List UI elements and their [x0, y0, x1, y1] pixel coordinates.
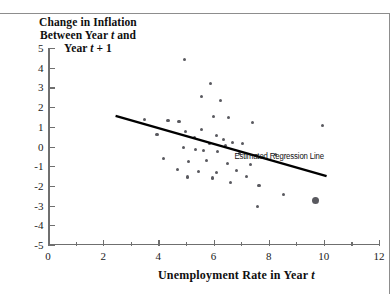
highlighted-data-point: [312, 197, 320, 205]
data-point: [194, 148, 197, 151]
data-point: [143, 118, 146, 121]
y-axis-tick-label: 2: [38, 101, 44, 113]
data-point: [219, 99, 222, 102]
figure-frame-top-border: [0, 13, 390, 14]
data-point: [251, 121, 254, 124]
data-point: [200, 95, 203, 98]
y-axis-tick: -2: [48, 186, 55, 187]
data-point: [224, 144, 227, 147]
plot-area: 543210-1-2-3-4-5 024681012 Estimated Reg…: [48, 48, 379, 245]
x-axis-tick: 4: [158, 240, 159, 246]
data-point: [241, 142, 244, 145]
data-point: [184, 130, 187, 133]
data-point: [257, 184, 260, 187]
y-axis-tick-label: 0: [38, 141, 44, 153]
x-axis-minor-tick: [241, 242, 242, 246]
data-point: [249, 163, 252, 166]
data-point: [212, 115, 215, 118]
data-point: [193, 136, 196, 139]
x-axis-tick-label: 2: [100, 250, 106, 262]
figure-container: Change in InflationBetween Year t andYea…: [0, 0, 390, 294]
x-axis-tick: 10: [324, 240, 325, 246]
x-axis-tick-label: 10: [318, 250, 329, 262]
y-axis-tick: 3: [48, 87, 55, 88]
x-axis-tick-label: 6: [211, 250, 217, 262]
x-axis-tick: 12: [379, 240, 380, 246]
x-axis-tick-label: 8: [266, 250, 272, 262]
data-point: [231, 141, 234, 144]
x-axis-minor-tick: [131, 242, 132, 246]
data-point: [166, 119, 169, 122]
data-point: [226, 162, 229, 165]
data-point: [282, 193, 285, 196]
y-axis-tick: -3: [48, 206, 55, 207]
data-point: [183, 58, 186, 61]
data-point: [182, 146, 185, 149]
data-point: [187, 160, 190, 163]
data-point: [209, 82, 212, 85]
data-point: [229, 181, 232, 184]
x-axis-tick-label: 0: [45, 250, 51, 262]
data-point: [155, 133, 158, 136]
data-point: [222, 138, 225, 141]
y-axis-tick: 2: [48, 107, 55, 108]
data-point: [202, 149, 205, 152]
data-point: [227, 116, 230, 119]
x-axis-minor-tick: [76, 242, 77, 246]
y-axis-tick-label: 1: [38, 121, 44, 133]
y-axis-tick-label: 4: [38, 62, 44, 74]
y-axis-tick-label: 5: [38, 42, 44, 54]
data-point: [208, 142, 211, 145]
x-axis-minor-tick: [296, 242, 297, 246]
data-point: [177, 120, 180, 123]
data-point: [176, 168, 179, 171]
y-axis-tick: 4: [48, 68, 55, 69]
x-axis-tick: 0: [48, 240, 49, 246]
data-point: [215, 134, 218, 137]
y-axis-tick: -4: [48, 225, 55, 226]
data-point: [256, 205, 259, 208]
data-point: [235, 169, 238, 172]
x-axis-tick: 2: [103, 240, 104, 246]
x-axis-minor-tick: [186, 242, 187, 246]
y-axis-tick-label: -3: [34, 200, 43, 212]
y-axis-tick: 5: [48, 48, 55, 49]
y-axis-tick-label: -2: [34, 180, 43, 192]
y-axis-tick-label: -1: [34, 160, 43, 172]
x-axis-tick: 8: [269, 240, 270, 246]
data-point: [211, 176, 214, 179]
data-point: [216, 150, 219, 153]
y-axis-tick: -1: [48, 166, 55, 167]
x-axis-tick: 6: [214, 240, 215, 246]
data-point: [186, 175, 189, 178]
x-axis-minor-tick: [351, 242, 352, 246]
data-point: [200, 128, 203, 131]
estimated-regression-line: [48, 48, 379, 245]
data-point: [205, 159, 208, 162]
y-axis-tick: 0: [48, 147, 55, 148]
y-axis-tick-label: -4: [34, 219, 43, 231]
x-axis-tick-label: 12: [374, 250, 385, 262]
y-axis-tick-label: -5: [34, 239, 43, 251]
regression-line-label: Estimated Regression Line: [234, 151, 324, 161]
x-axis-tick-label: 4: [156, 250, 162, 262]
y-axis-tick-label: 3: [38, 81, 44, 93]
data-point: [245, 175, 248, 178]
data-point: [197, 170, 200, 173]
y-axis-tick: 1: [48, 127, 55, 128]
data-point: [162, 157, 165, 160]
x-axis-title: Unemployment Rate in Year t: [158, 268, 315, 283]
data-point: [321, 124, 324, 127]
data-point: [215, 171, 218, 174]
